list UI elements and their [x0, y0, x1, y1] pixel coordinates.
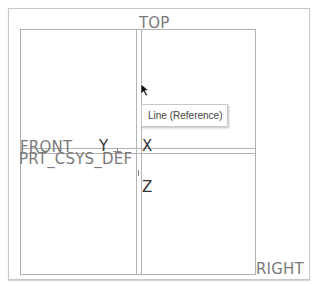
top-plane-label[interactable]: TOP: [139, 16, 170, 31]
arrow-pointer-icon: [140, 83, 152, 99]
top-plane-edge-line-1[interactable]: [136, 29, 137, 275]
y-axis-label: Y: [99, 139, 108, 154]
graphics-viewport[interactable]: TOP FRONT RIGHT PRT_CSYS_DEF Y X Z Line …: [0, 0, 317, 286]
right-plane-label[interactable]: RIGHT: [256, 262, 304, 277]
y-axis-tick-mark: [117, 148, 118, 153]
z-axis-label: Z: [142, 180, 152, 195]
hover-tooltip: Line (Reference): [141, 104, 228, 127]
z-axis-tick: [138, 170, 139, 176]
x-axis-label: X: [142, 139, 152, 154]
csys-label[interactable]: PRT_CSYS_DEF: [19, 152, 132, 167]
